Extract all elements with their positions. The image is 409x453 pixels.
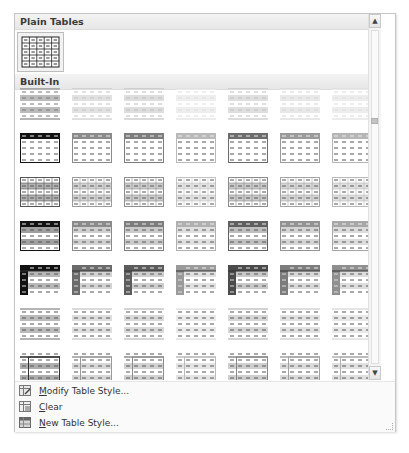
- gallery-scrollbar[interactable]: ▲ ▼: [368, 14, 381, 380]
- table-style-thumbnail[interactable]: [176, 350, 216, 380]
- arrow-down-icon: ▼: [372, 369, 377, 377]
- table-style-thumbnail[interactable]: [72, 132, 112, 164]
- clear-table-icon: [19, 401, 31, 412]
- table-style-thumbnail[interactable]: [280, 264, 320, 296]
- scroll-track[interactable]: [371, 30, 379, 364]
- table-style-thumbnail[interactable]: [332, 132, 372, 164]
- scroll-down-button[interactable]: ▼: [369, 366, 381, 380]
- menu-label: lear: [45, 402, 62, 412]
- table-style-thumbnail[interactable]: [124, 264, 164, 296]
- table-style-thumbnail[interactable]: [124, 220, 164, 252]
- table-style-thumbnail[interactable]: [228, 132, 268, 164]
- table-style-thumbnail[interactable]: [332, 308, 372, 340]
- table-style-thumbnail[interactable]: [332, 350, 372, 380]
- table-style-thumbnail[interactable]: [72, 350, 112, 380]
- mnemonic: N: [39, 418, 46, 428]
- table-style-thumbnail[interactable]: [280, 176, 320, 208]
- table-style-thumbnail[interactable]: [20, 88, 60, 120]
- table-style-thumbnail[interactable]: [176, 264, 216, 296]
- gallery-menu: Modify Table Style... Clear New Table St…: [15, 381, 395, 432]
- table-style-thumbnail[interactable]: [228, 220, 268, 252]
- table-style-thumbnail[interactable]: [280, 350, 320, 380]
- table-style-thumbnail[interactable]: [124, 176, 164, 208]
- table-style-thumbnail[interactable]: [228, 350, 268, 380]
- table-style-thumbnail[interactable]: [20, 220, 60, 252]
- arrow-up-icon: ▲: [372, 17, 377, 25]
- table-style-thumbnail[interactable]: [332, 264, 372, 296]
- table-style-thumbnail[interactable]: [228, 176, 268, 208]
- menu-label: ew Table Style...: [46, 418, 119, 428]
- table-style-thumbnail[interactable]: [72, 308, 112, 340]
- table-style-thumbnail[interactable]: [20, 308, 60, 340]
- table-style-thumbnail[interactable]: [124, 350, 164, 380]
- table-style-thumbnail[interactable]: [332, 220, 372, 252]
- table-style-thumbnail[interactable]: [176, 132, 216, 164]
- mnemonic: M: [39, 386, 47, 396]
- table-style-thumbnail[interactable]: [72, 264, 112, 296]
- table-style-thumbnail[interactable]: [176, 308, 216, 340]
- new-table-style-icon: [19, 417, 31, 428]
- menu-item-new-table-style[interactable]: New Table Style...: [15, 415, 393, 431]
- table-style-thumbnail[interactable]: [124, 132, 164, 164]
- gallery-area: Plain Tables Built-In ▲ ▼: [15, 14, 381, 380]
- table-style-thumbnail[interactable]: [20, 264, 60, 296]
- table-style-thumbnail[interactable]: [228, 88, 268, 120]
- table-style-thumbnail[interactable]: [176, 88, 216, 120]
- table-style-thumbnail[interactable]: [332, 176, 372, 208]
- menu-label: odify Table Style...: [47, 386, 129, 396]
- style-table-grid[interactable]: [17, 32, 64, 72]
- table-style-thumbnail[interactable]: [280, 132, 320, 164]
- table-style-thumbnail[interactable]: [176, 220, 216, 252]
- table-style-thumbnail[interactable]: [72, 220, 112, 252]
- scroll-up-button[interactable]: ▲: [369, 14, 381, 28]
- resize-grip[interactable]: [386, 423, 393, 430]
- table-style-thumbnail[interactable]: [72, 88, 112, 120]
- table-style-thumbnail[interactable]: [280, 88, 320, 120]
- table-style-thumbnail[interactable]: [228, 308, 268, 340]
- menu-item-clear[interactable]: Clear: [15, 399, 393, 415]
- table-style-thumbnail[interactable]: [280, 220, 320, 252]
- menu-item-modify-table-style[interactable]: Modify Table Style...: [15, 383, 393, 399]
- section-header-plain-tables: Plain Tables: [15, 14, 381, 30]
- table-style-thumbnail[interactable]: [72, 176, 112, 208]
- table-style-thumbnail[interactable]: [332, 88, 372, 120]
- table-style-thumbnail[interactable]: [176, 176, 216, 208]
- table-style-thumbnail[interactable]: [124, 308, 164, 340]
- modify-table-style-icon: [19, 385, 31, 396]
- table-style-thumbnail[interactable]: [124, 88, 164, 120]
- table-style-thumbnail[interactable]: [228, 264, 268, 296]
- table-style-thumbnail[interactable]: [280, 308, 320, 340]
- table-style-thumbnail[interactable]: [20, 132, 60, 164]
- table-style-thumbnail[interactable]: [20, 350, 60, 380]
- table-style-thumbnail[interactable]: [20, 176, 60, 208]
- table-grid-icon: [18, 33, 63, 71]
- scroll-thumb[interactable]: [371, 118, 378, 124]
- table-styles-gallery-dropdown: Plain Tables Built-In ▲ ▼: [14, 13, 396, 432]
